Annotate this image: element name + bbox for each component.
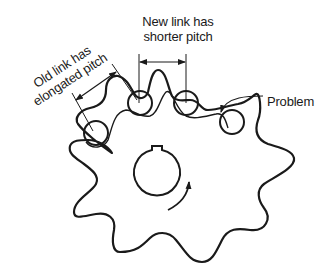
- hub-bore-with-keyway: [134, 146, 180, 195]
- problem-roller: [220, 110, 244, 134]
- problem-label: Problem: [267, 94, 314, 109]
- new-link-label: New link has shorter pitch: [138, 14, 218, 44]
- new-link-label-line1: New link has: [138, 14, 218, 29]
- rotation-arrow-icon: [168, 182, 189, 210]
- sprocket-outline: [70, 70, 294, 262]
- extension-line-old-2: [112, 64, 137, 100]
- new-link-label-line2: shorter pitch: [138, 29, 218, 44]
- extension-line-old-1: [72, 93, 93, 131]
